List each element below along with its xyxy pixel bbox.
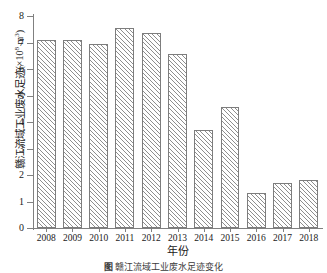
x-axis-tick-label: 2015: [217, 233, 243, 244]
bar-2008: [37, 40, 56, 228]
bar-2016: [247, 193, 266, 229]
x-axis-tick-label: 2012: [138, 233, 164, 244]
y-axis-tick-label: 3: [0, 144, 24, 154]
x-axis-tick-label: 2008: [33, 233, 59, 244]
x-axis-tick: [283, 228, 284, 232]
bar-2014: [194, 130, 213, 228]
x-axis-tick-label: 2016: [243, 233, 269, 244]
y-axis-tick-label: 4: [0, 117, 24, 127]
y-axis-tick-label: 2: [0, 170, 24, 180]
x-axis-tick: [256, 228, 257, 232]
y-axis-tick-label: 8: [0, 11, 24, 21]
y-axis-unit-close: ): [15, 30, 26, 33]
x-axis-tick: [309, 228, 310, 232]
x-axis-tick: [204, 228, 205, 232]
y-axis-tick-label: 6: [0, 64, 24, 74]
x-axis-tick-label: 2011: [112, 233, 138, 244]
caption-tag: 图: [104, 262, 113, 272]
bar-2009: [63, 40, 82, 228]
bar-2015: [221, 107, 240, 228]
caption-text: 赣江流域工业废水足迹变化: [115, 262, 223, 272]
x-axis-tick: [72, 228, 73, 232]
y-axis-tick-label: 1: [0, 197, 24, 207]
y-axis-unit-exponent: 8: [13, 47, 21, 51]
x-axis-tick: [151, 228, 152, 232]
x-axis-title: 年份: [33, 245, 323, 258]
x-axis-tick-label: 2009: [59, 233, 85, 244]
y-axis-tick-label: 5: [0, 91, 24, 101]
x-axis-tick: [178, 228, 179, 232]
bar-2018: [299, 180, 318, 228]
x-axis-tick-label: 2013: [164, 233, 190, 244]
x-axis-tick: [46, 228, 47, 232]
bar-2010: [89, 44, 108, 228]
y-axis-tick: [27, 228, 33, 229]
x-axis-tick: [125, 228, 126, 232]
y-axis-tick-label: 0: [0, 223, 24, 233]
bar-2011: [115, 28, 134, 228]
x-axis-tick: [230, 228, 231, 232]
bar-2012: [142, 33, 161, 228]
plot-area: [33, 16, 322, 228]
x-axis-tick-label: 2010: [86, 233, 112, 244]
y-axis-tick-label: 7: [0, 38, 24, 48]
x-axis-tick-label: 2018: [296, 233, 322, 244]
figure-caption: 图 赣江流域工业废水足迹变化: [0, 262, 327, 273]
bar-2013: [168, 54, 187, 228]
x-axis-tick-label: 2017: [269, 233, 295, 244]
x-axis-tick-label: 2014: [191, 233, 217, 244]
x-axis-tick: [99, 228, 100, 232]
bar-2017: [273, 183, 292, 228]
